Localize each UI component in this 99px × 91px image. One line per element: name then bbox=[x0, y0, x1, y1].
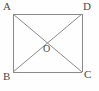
geometry-figure: A D B C O bbox=[0, 0, 99, 91]
vertex-label-C: C bbox=[84, 69, 91, 80]
vertex-label-O: O bbox=[43, 44, 50, 54]
vertex-label-D: D bbox=[83, 1, 91, 12]
vertex-label-B: B bbox=[3, 71, 10, 82]
vertex-label-A: A bbox=[3, 1, 11, 12]
